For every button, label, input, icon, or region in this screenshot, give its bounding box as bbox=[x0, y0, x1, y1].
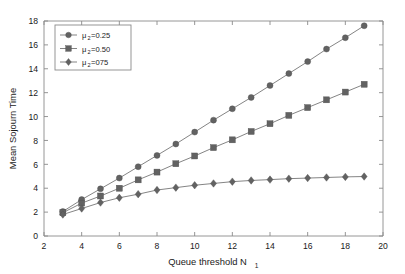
data-point-circle bbox=[342, 35, 348, 41]
y-tick-label: 12 bbox=[28, 88, 38, 98]
x-tick-label: 20 bbox=[378, 241, 388, 251]
data-point-circle bbox=[211, 117, 217, 123]
data-point-circle bbox=[192, 129, 198, 135]
data-point-square bbox=[66, 46, 72, 52]
data-point-diamond bbox=[286, 175, 292, 183]
data-point-square bbox=[286, 112, 292, 118]
data-point-diamond bbox=[305, 174, 311, 182]
data-point-square bbox=[116, 185, 122, 191]
data-point-circle bbox=[135, 164, 141, 170]
x-tick-label: 12 bbox=[228, 241, 238, 251]
data-point-square bbox=[173, 161, 179, 167]
data-point-square bbox=[248, 128, 254, 134]
y-tick-label: 14 bbox=[28, 64, 38, 74]
data-point-diamond bbox=[324, 174, 330, 182]
legend-label-value: =0.25 bbox=[91, 31, 110, 40]
data-point-square bbox=[361, 81, 367, 87]
data-point-circle bbox=[154, 152, 160, 158]
y-tick-label: 6 bbox=[33, 160, 38, 170]
y-tick-label: 0 bbox=[33, 231, 38, 241]
data-point-diamond bbox=[211, 180, 217, 188]
x-tick-label: 10 bbox=[190, 241, 200, 251]
data-point-circle bbox=[361, 23, 367, 29]
data-point-square bbox=[211, 145, 217, 151]
data-point-square bbox=[267, 121, 273, 127]
y-tick-label: 4 bbox=[33, 183, 38, 193]
data-point-diamond bbox=[248, 177, 254, 185]
y-tick-label: 18 bbox=[28, 16, 38, 26]
data-point-square bbox=[342, 89, 348, 95]
data-point-circle bbox=[98, 186, 104, 192]
legend-label-symbol: μ bbox=[82, 31, 86, 40]
data-point-circle bbox=[267, 83, 273, 89]
data-point-square bbox=[135, 177, 141, 183]
data-point-diamond bbox=[192, 181, 198, 189]
data-point-circle bbox=[173, 141, 179, 147]
data-point-square bbox=[324, 97, 330, 103]
data-point-circle bbox=[229, 106, 235, 112]
data-point-circle bbox=[286, 71, 292, 77]
data-point-diamond bbox=[361, 173, 367, 181]
data-point-circle bbox=[305, 59, 311, 65]
data-point-diamond bbox=[154, 186, 160, 194]
figure-container: 2468101214161820024681012141618Queue thr… bbox=[0, 0, 405, 274]
legend-label-symbol: μ bbox=[82, 58, 86, 67]
data-point-diamond bbox=[116, 194, 122, 202]
x-tick-label: 4 bbox=[79, 241, 84, 251]
line-chart: 2468101214161820024681012141618Queue thr… bbox=[0, 0, 405, 274]
legend-label-value: =075 bbox=[91, 58, 108, 67]
data-point-square bbox=[98, 193, 104, 199]
data-point-diamond bbox=[135, 190, 141, 198]
data-point-square bbox=[229, 137, 235, 143]
y-axis-label: Mean Sojourn Time bbox=[7, 88, 18, 169]
y-tick-label: 10 bbox=[28, 112, 38, 122]
series-mu2=075 bbox=[60, 173, 367, 218]
x-tick-label: 2 bbox=[42, 241, 47, 251]
data-point-diamond bbox=[342, 173, 348, 181]
legend-label-symbol: μ bbox=[82, 45, 86, 54]
x-tick-label: 8 bbox=[155, 241, 160, 251]
data-point-circle bbox=[324, 46, 330, 52]
y-tick-label: 2 bbox=[33, 207, 38, 217]
data-point-diamond bbox=[267, 176, 273, 184]
x-tick-label: 6 bbox=[117, 241, 122, 251]
data-point-circle bbox=[116, 175, 122, 181]
data-point-diamond bbox=[173, 184, 179, 192]
data-point-circle bbox=[248, 94, 254, 100]
x-tick-label: 16 bbox=[303, 241, 313, 251]
x-axis-label: Queue threshold N bbox=[168, 256, 247, 267]
x-axis-label-subscript: 1 bbox=[255, 262, 259, 269]
data-point-square bbox=[154, 169, 160, 175]
x-tick-label: 14 bbox=[265, 241, 275, 251]
y-tick-label: 16 bbox=[28, 40, 38, 50]
x-tick-label: 18 bbox=[341, 241, 351, 251]
data-point-circle bbox=[66, 32, 72, 38]
data-point-diamond bbox=[229, 178, 235, 186]
data-point-diamond bbox=[98, 199, 104, 207]
legend-label-value: =0.50 bbox=[91, 45, 110, 54]
data-point-square bbox=[192, 153, 198, 159]
y-tick-label: 8 bbox=[33, 136, 38, 146]
series-mu2=0.50 bbox=[60, 81, 367, 215]
data-point-square bbox=[305, 105, 311, 111]
